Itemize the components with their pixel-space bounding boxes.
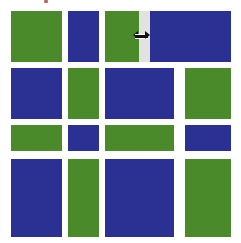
color-block-r4c4[interactable] (185, 159, 231, 237)
color-block-r2c1[interactable] (11, 68, 62, 119)
color-block-r4c1[interactable] (11, 159, 62, 237)
color-block-r2c3[interactable] (105, 68, 174, 119)
color-block-r1c3[interactable] (105, 11, 139, 62)
color-block-r4c2[interactable] (68, 159, 99, 237)
pane-splitter[interactable] (139, 11, 150, 62)
color-block-r3c3[interactable] (105, 125, 174, 151)
color-block-r1c4[interactable] (150, 11, 231, 62)
clipped-toolbar-dot (44, 0, 48, 3)
color-block-r1c1[interactable] (11, 11, 62, 62)
color-block-r3c4[interactable] (185, 125, 231, 151)
color-block-r4c3[interactable] (105, 159, 174, 237)
color-block-r2c2[interactable] (68, 68, 99, 119)
color-block-r2c4[interactable] (185, 68, 231, 119)
color-block-r1c2[interactable] (68, 11, 99, 62)
color-block-r3c1[interactable] (11, 125, 62, 151)
color-block-r3c2[interactable] (68, 125, 99, 151)
clipped-toolbar-strip (0, 0, 241, 9)
color-block-grid-canvas (0, 0, 241, 243)
